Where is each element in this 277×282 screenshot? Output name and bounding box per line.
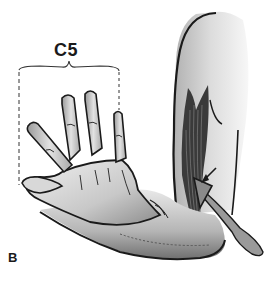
hand xyxy=(22,91,160,225)
biceps-reflex-illustration: C5 B xyxy=(0,0,277,282)
dermatome-label: C5 xyxy=(54,40,78,61)
panel-label: B xyxy=(8,250,17,265)
